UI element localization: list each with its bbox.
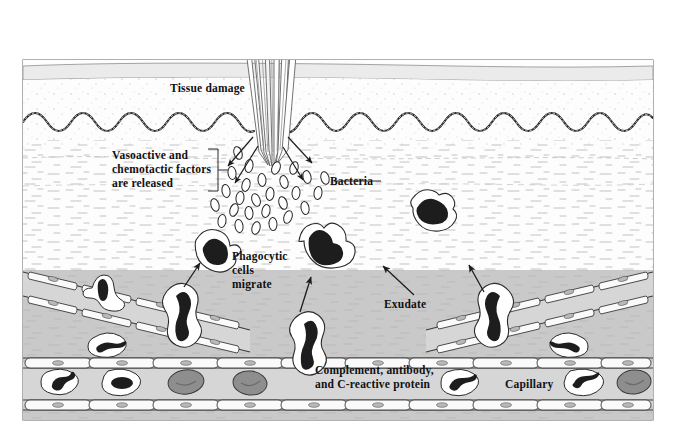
label-capillary: Capillary [505, 378, 553, 392]
label-tissue-damage: Tissue damage [170, 82, 245, 96]
bacteria-ellipse [292, 186, 301, 200]
phagocytic-cell-diapedesis [162, 283, 201, 347]
label-vasoactive-factors: Vasoactive and chemotactic factors are r… [112, 148, 211, 190]
phagocytic-cell-diapedesis [474, 283, 513, 347]
epidermis-body [23, 77, 653, 150]
bacteria-ellipse [269, 217, 278, 230]
label-bacteria: Bacteria [330, 175, 373, 189]
inflammatory-response-figure: Tissue damage Vasoactive and chemotactic… [0, 0, 677, 430]
label-exudate: Exudate [384, 298, 426, 312]
white-blood-cell [564, 369, 604, 396]
label-phagocytic-cells-migrate: Phagocytic cells migrate [232, 249, 288, 291]
label-complement-antibody: Complement, antibody, and C-reactive pro… [315, 363, 434, 391]
